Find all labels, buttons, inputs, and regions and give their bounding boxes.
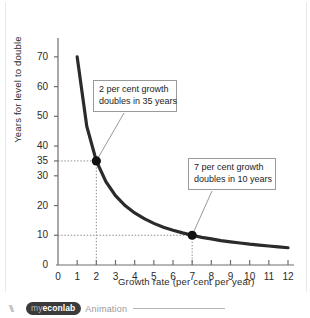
y-tick-label-70: 70 (22, 51, 48, 62)
data-point-markers (92, 156, 197, 240)
y-tick-label-35: 35 (22, 155, 48, 166)
footer-brand: \\\ myeconlab Animation (9, 302, 127, 315)
annotation-2-percent-line2: doubles in 35 years (99, 96, 172, 108)
point-2-percent-marker (92, 156, 101, 165)
animation-caption: Animation (85, 304, 127, 314)
y-tick-label-60: 60 (22, 81, 48, 92)
dropline-group (58, 161, 192, 265)
y-tick-label-20: 20 (22, 200, 48, 211)
y-tick-label-10: 10 (22, 229, 48, 240)
annotation-2-percent-line1: 2 per cent growth (99, 84, 172, 96)
y-tick-label-40: 40 (22, 140, 48, 151)
annotation-7-percent-line1: 7 per cent growth (194, 162, 271, 174)
myeconlab-logo-prefix: my (31, 303, 43, 313)
x-tick-label-12: 12 (277, 271, 299, 282)
annotation-2-percent-leader-line (96, 113, 124, 161)
y-tick-label-50: 50 (22, 110, 48, 121)
footer-rule (133, 308, 225, 309)
y-tick-label-30: 30 (22, 170, 48, 181)
annotation-7-percent-line2: doubles in 10 years (194, 174, 271, 186)
y-tick-label-0: 0 (22, 259, 48, 270)
annotation-2-percent: 2 per cent growth doubles in 35 years (93, 80, 177, 112)
chart-figure: Years for level to double Growth rate (p… (0, 0, 310, 318)
myeconlab-logo-name: econlab (43, 303, 76, 313)
pearson-mark-icon: \\\ (9, 303, 22, 314)
annotation-7-percent-leader-line (192, 191, 212, 235)
myeconlab-logo: myeconlab (26, 302, 81, 315)
point-7-percent-marker (188, 231, 197, 240)
annotation-7-percent: 7 per cent growth doubles in 10 years (188, 158, 276, 190)
